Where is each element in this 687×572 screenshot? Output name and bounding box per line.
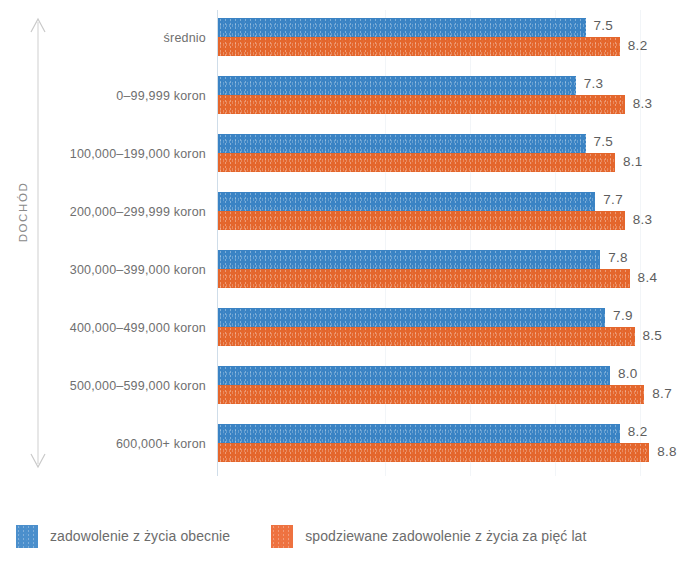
legend-label-expected: spodziewane zadowolenie z życia za pięć … bbox=[305, 528, 586, 544]
value-label-expected: 8.3 bbox=[633, 212, 653, 227]
bar-group: średnio7.58.2 bbox=[217, 18, 669, 66]
category-label: 0–99,999 koron bbox=[6, 89, 206, 103]
value-label-expected: 8.4 bbox=[638, 270, 658, 285]
plot-area: średnio7.58.20–99,999 koron7.38.3100,000… bbox=[217, 8, 669, 478]
bar-group: 300,000–399,000 koron7.88.4 bbox=[217, 250, 669, 298]
legend-swatch-blue-icon bbox=[16, 525, 38, 548]
legend: zadowolenie z życia obecnie spodziewane … bbox=[16, 521, 587, 551]
value-label-current: 7.3 bbox=[584, 76, 604, 91]
category-label: 600,000+ koron bbox=[6, 437, 206, 451]
bar-expected[interactable] bbox=[218, 211, 625, 230]
bar-current[interactable] bbox=[218, 424, 620, 443]
category-label: 100,000–199,000 koron bbox=[6, 147, 206, 161]
category-label: 200,000–299,999 koron bbox=[6, 205, 206, 219]
double-arrow-vertical-icon bbox=[28, 8, 48, 478]
category-label: 300,000–399,000 koron bbox=[6, 263, 206, 277]
bar-expected[interactable] bbox=[218, 327, 635, 346]
legend-label-current: zadowolenie z życia obecnie bbox=[50, 528, 230, 544]
bar-expected[interactable] bbox=[218, 37, 620, 56]
value-label-current: 8.0 bbox=[618, 366, 638, 381]
bar-group: 200,000–299,999 koron7.78.3 bbox=[217, 192, 669, 240]
bar-current[interactable] bbox=[218, 76, 576, 95]
bar-current[interactable] bbox=[218, 366, 610, 385]
bar-expected[interactable] bbox=[218, 95, 625, 114]
income-life-satisfaction-bar-chart: DOCHÓD średnio7.58.20–99,999 koron7.38.3… bbox=[0, 0, 687, 572]
legend-swatch-orange-icon bbox=[271, 525, 293, 548]
value-label-expected: 8.3 bbox=[633, 96, 653, 111]
bar-group: 600,000+ koron8.28.8 bbox=[217, 424, 669, 472]
bar-group: 500,000–599,000 koron8.08.7 bbox=[217, 366, 669, 414]
bar-group: 400,000–499,000 koron7.98.5 bbox=[217, 308, 669, 356]
category-label: średnio bbox=[6, 31, 206, 45]
value-label-current: 7.9 bbox=[613, 308, 633, 323]
category-label: 500,000–599,000 koron bbox=[6, 379, 206, 393]
value-label-expected: 8.1 bbox=[623, 154, 643, 169]
value-label-current: 8.2 bbox=[628, 424, 648, 439]
bar-expected[interactable] bbox=[218, 385, 644, 404]
bar-current[interactable] bbox=[218, 192, 595, 211]
legend-item-expected[interactable]: spodziewane zadowolenie z życia za pięć … bbox=[271, 525, 586, 548]
value-label-expected: 8.8 bbox=[657, 444, 677, 459]
bar-current[interactable] bbox=[218, 134, 586, 153]
bar-group: 100,000–199,000 koron7.58.1 bbox=[217, 134, 669, 182]
bar-expected[interactable] bbox=[218, 269, 630, 288]
legend-item-current[interactable]: zadowolenie z życia obecnie bbox=[16, 525, 230, 548]
value-label-expected: 8.2 bbox=[628, 38, 648, 53]
bar-group: 0–99,999 koron7.38.3 bbox=[217, 76, 669, 124]
value-label-current: 7.7 bbox=[603, 192, 623, 207]
bar-expected[interactable] bbox=[218, 153, 615, 172]
value-label-current: 7.8 bbox=[608, 250, 628, 265]
value-label-expected: 8.7 bbox=[652, 386, 672, 401]
bar-current[interactable] bbox=[218, 308, 605, 327]
value-label-current: 7.5 bbox=[594, 18, 614, 33]
category-label: 400,000–499,000 koron bbox=[6, 321, 206, 335]
bar-current[interactable] bbox=[218, 18, 586, 37]
value-label-expected: 8.5 bbox=[643, 328, 663, 343]
bar-expected[interactable] bbox=[218, 443, 649, 462]
bar-current[interactable] bbox=[218, 250, 600, 269]
value-label-current: 7.5 bbox=[594, 134, 614, 149]
